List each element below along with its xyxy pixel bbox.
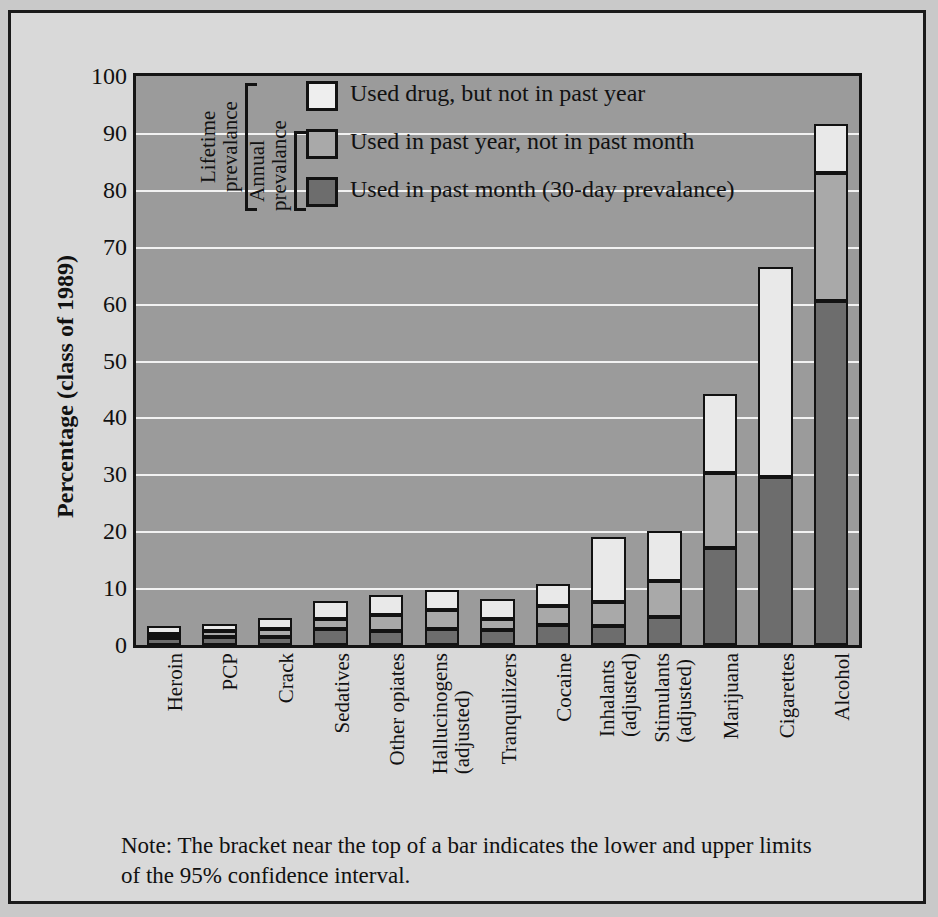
bar-segment-light (425, 590, 459, 610)
legend-label: Used in past month (30-day prevalance) (350, 176, 735, 203)
x-axis-labels: HeroinPCPCrackSedativesOther opiatesHall… (133, 653, 862, 833)
bar-segment-med (425, 610, 459, 629)
bar-inhalants-adjusted[interactable] (591, 537, 625, 645)
x-label-line: Hallucinogens (429, 653, 451, 774)
x-label-line: Other opiates (386, 653, 408, 766)
x-label-pcp: PCP (219, 653, 241, 690)
x-label-cigarettes: Cigarettes (776, 653, 798, 738)
legend-label: Used drug, but not in past year (350, 80, 645, 107)
gridline-50 (136, 361, 859, 363)
bar-segment-dark (258, 637, 292, 645)
legend: Used drug, but not in past yearUsed in p… (171, 61, 641, 241)
bar-segment-med (480, 619, 514, 630)
bracket-label-line: prevalance (268, 131, 290, 211)
bar-heroin[interactable] (147, 626, 181, 645)
y-tick-0: 0 (67, 633, 127, 657)
x-label-heroin: Heroin (164, 653, 186, 711)
bar-segment-dark (147, 638, 181, 645)
gridline-70 (136, 247, 859, 249)
x-label-line: PCP (219, 653, 241, 690)
bar-segment-light (258, 618, 292, 628)
x-label-line: Stimulants (651, 653, 673, 743)
x-label-line: Marijuana (720, 653, 742, 739)
x-label-line: (adjusted) (451, 653, 473, 774)
bar-segment-light (480, 599, 514, 619)
y-tick-60: 60 (67, 292, 127, 316)
bracket-label-line: Lifetime (197, 83, 219, 211)
gridline-60 (136, 304, 859, 306)
bar-sedatives[interactable] (313, 601, 347, 645)
bar-marijuana[interactable] (703, 394, 737, 645)
x-label-line: Crack (275, 653, 297, 703)
bar-segment-med (647, 581, 681, 617)
bracket-annual: Annualprevalance (294, 131, 306, 211)
bar-segment-dark (425, 629, 459, 646)
bar-segment-light (536, 584, 570, 606)
bar-segment-light (814, 124, 848, 172)
bar-segment-dark (536, 625, 570, 645)
x-label-inhalants-adjusted: Inhalants(adjusted) (596, 653, 640, 737)
legend-swatch-dark-icon (306, 177, 338, 207)
note-line-2: of the 95% confidence interval. (121, 861, 881, 891)
x-label-line: Cigarettes (776, 653, 798, 738)
bar-segment-light (758, 267, 792, 478)
bar-cigarettes[interactable] (758, 267, 792, 645)
bar-segment-dark (369, 631, 403, 645)
bar-segment-dark (647, 617, 681, 645)
x-label-stimulants-adjusted: Stimulants(adjusted) (651, 653, 695, 743)
bar-segment-med (313, 619, 347, 629)
bar-segment-med (703, 473, 737, 548)
legend-label: Used in past year, not in past month (350, 128, 694, 155)
bar-segment-dark (703, 548, 737, 645)
bar-segment-dark (758, 477, 792, 645)
y-tick-30: 30 (67, 462, 127, 486)
bracket-tick-top (245, 83, 257, 86)
x-label-line: Tranquilizers (498, 653, 520, 764)
gridline-30 (136, 474, 859, 476)
bar-cocaine[interactable] (536, 584, 570, 645)
bar-alcohol[interactable] (814, 124, 848, 645)
figure-note: Note: The bracket near the top of a bar … (121, 831, 881, 892)
bar-stimulants-adjusted[interactable] (647, 531, 681, 645)
bracket-line (294, 131, 297, 211)
bar-other-opiates[interactable] (369, 595, 403, 645)
bar-segment-light (703, 394, 737, 474)
bar-segment-med (202, 631, 236, 637)
x-label-other-opiates: Other opiates (386, 653, 408, 766)
bar-crack[interactable] (258, 618, 292, 645)
bar-segment-light (647, 531, 681, 581)
figure-frame: Percentage (class of 1989) 1009080706050… (8, 10, 926, 904)
bracket-lifetime-label: Lifetimeprevalance (197, 83, 241, 211)
x-label-line: Inhalants (596, 653, 618, 737)
x-label-line: (adjusted) (673, 653, 695, 743)
bar-segment-dark (202, 637, 236, 645)
bar-segment-dark (591, 626, 625, 645)
y-tick-90: 90 (67, 121, 127, 145)
bracket-tick-bottom (294, 208, 306, 211)
bracket-label-line: prevalance (219, 83, 241, 211)
x-label-tranquilizers: Tranquilizers (498, 653, 520, 764)
bar-segment-light (147, 626, 181, 633)
x-label-crack: Crack (275, 653, 297, 703)
bar-segment-med (591, 602, 625, 626)
y-tick-100: 100 (67, 64, 127, 88)
bar-segment-light (202, 624, 236, 631)
y-axis-ticks: 1009080706050403020100 (63, 73, 127, 645)
bar-segment-med (536, 606, 570, 625)
x-label-line: Cocaine (553, 653, 575, 722)
bar-segment-light (369, 595, 403, 615)
y-tick-70: 70 (67, 235, 127, 259)
bar-pcp[interactable] (202, 624, 236, 645)
bracket-tick-top (294, 131, 306, 134)
x-label-line: Alcohol (831, 653, 853, 721)
bar-segment-med (814, 173, 848, 301)
bar-segment-light (313, 601, 347, 619)
x-label-line: Sedatives (331, 653, 353, 733)
bar-tranquilizers[interactable] (480, 599, 514, 645)
gridline-40 (136, 417, 859, 419)
bar-segment-dark (814, 301, 848, 645)
y-tick-40: 40 (67, 405, 127, 429)
gridline-20 (136, 531, 859, 533)
bar-hallucinogens-adjusted[interactable] (425, 590, 459, 645)
legend-swatch-light-icon (306, 81, 338, 111)
